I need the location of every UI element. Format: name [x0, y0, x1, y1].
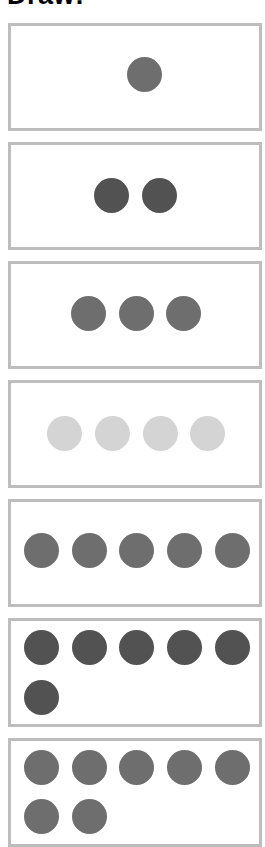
dot-icon: [119, 750, 154, 785]
dot-icon: [119, 630, 154, 665]
dot-icon: [166, 296, 201, 331]
dot-icon: [24, 799, 59, 834]
dot-icon: [72, 799, 107, 834]
dot-icon: [94, 178, 129, 213]
dot-icon: [119, 296, 154, 331]
dot-icon: [24, 680, 59, 715]
dot-icon: [190, 416, 225, 451]
dot-icon: [143, 416, 178, 451]
dot-icon: [95, 416, 130, 451]
dot-icon: [24, 750, 59, 785]
dot-icon: [215, 630, 250, 665]
dot-icon: [142, 178, 177, 213]
dot-icon: [119, 533, 154, 568]
dot-icon: [71, 296, 106, 331]
dot-icon: [24, 630, 59, 665]
dot-icon: [167, 750, 202, 785]
page-title: Draw:: [7, 0, 85, 9]
dot-icon: [127, 57, 162, 92]
dot-icon: [47, 416, 82, 451]
dot-icon: [215, 533, 250, 568]
dot-icon: [167, 533, 202, 568]
dot-icon: [167, 630, 202, 665]
dot-icon: [72, 750, 107, 785]
dot-icon: [24, 533, 59, 568]
dot-icon: [215, 750, 250, 785]
dot-icon: [72, 630, 107, 665]
dot-icon: [72, 533, 107, 568]
dot-box-2: [8, 142, 262, 250]
